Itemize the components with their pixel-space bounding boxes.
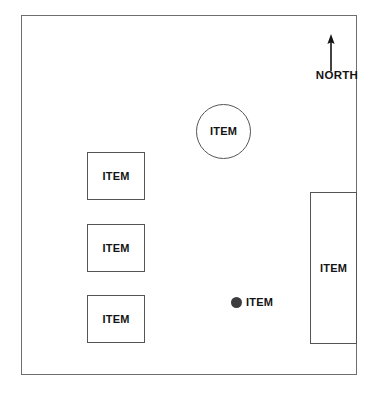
circle-item-label: ITEM [210,126,237,137]
point-item-center-shape[interactable]: ITEM [231,297,273,308]
point-item-center-label: ITEM [246,297,273,308]
rect-item-top-left-shape[interactable]: ITEM [87,152,145,200]
north-arrow-icon [324,34,338,73]
rect-item-top-left-label: ITEM [102,171,129,182]
site-boundary-rectangle: NORTH ITEM ITEM ITEM ITEM ITEM ITEM [21,15,357,375]
filled-dot-icon [231,297,242,308]
rect-item-bottom-left-label: ITEM [102,314,129,325]
north-label: NORTH [308,70,366,82]
north-compass-group: NORTH [308,34,366,86]
rect-item-middle-left-label: ITEM [102,243,129,254]
rect-item-tall-right-shape[interactable]: ITEM [310,192,357,344]
circle-item-shape[interactable]: ITEM [196,104,251,159]
rect-item-bottom-left-shape[interactable]: ITEM [87,295,145,343]
rect-item-middle-left-shape[interactable]: ITEM [87,224,145,272]
rect-item-tall-right-label: ITEM [320,263,347,274]
diagram-canvas: NORTH ITEM ITEM ITEM ITEM ITEM ITEM [0,0,371,398]
